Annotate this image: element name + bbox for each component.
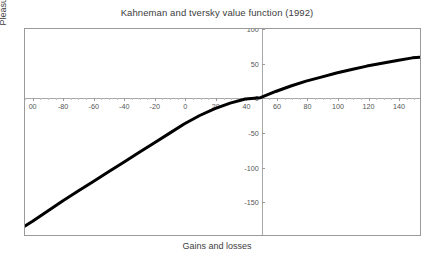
plot-frame: 00-80-60-40-20020406080100120140100500-5… (24, 28, 421, 236)
chart-figure: Kahneman and tversky value function (199… (0, 0, 434, 262)
y-axis-title: Pleasure/pain (0, 0, 8, 68)
chart-title: Kahneman and tversky value function (199… (0, 7, 434, 18)
plot-area: 00-80-60-40-20020406080100120140100500-5… (25, 29, 420, 235)
x-axis-title: Gains and losses (0, 241, 434, 251)
value-function-curve (25, 29, 420, 235)
